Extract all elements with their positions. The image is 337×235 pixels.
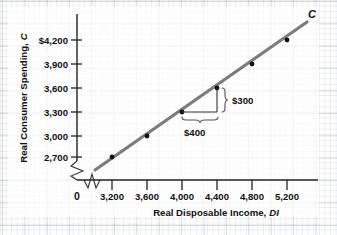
x-tick-label-3200: 3,200 bbox=[100, 191, 124, 202]
x-tick-label-3600: 3,600 bbox=[135, 191, 159, 202]
y-tick-label-4200: $4,200 bbox=[39, 35, 68, 46]
y-tick-label-3600: 3,600 bbox=[44, 83, 68, 94]
x-tick-label-4400: 4,400 bbox=[205, 191, 229, 202]
x-tick-label-4000: 4,000 bbox=[170, 191, 194, 202]
x-axis-title: Real Disposable Income,DI bbox=[153, 207, 279, 218]
graph-paper-background: $4,200 3,900 3,600 3,300 3,000 2,700 0 3… bbox=[0, 0, 337, 235]
x-axis-title-italic: DI bbox=[269, 207, 279, 218]
data-point-5200 bbox=[285, 38, 290, 43]
y-tick-label-3300: 3,300 bbox=[44, 107, 68, 118]
y-tick-label-3000: 3,000 bbox=[44, 131, 68, 142]
data-point-3600 bbox=[145, 134, 150, 139]
curve-label-c: C bbox=[308, 8, 317, 20]
origin-label: 0 bbox=[74, 190, 80, 202]
y-axis-title: Real Consumer Spending,C bbox=[18, 32, 29, 162]
y-tick-label-3900: 3,900 bbox=[44, 59, 68, 70]
y-axis-title-main: Real Consumer Spending, bbox=[18, 43, 29, 163]
y-tick-label-2700: 2,700 bbox=[44, 152, 68, 163]
run-brace bbox=[182, 117, 218, 123]
y-axis-break-icon bbox=[71, 161, 83, 180]
x-tick-label-4800: 4,800 bbox=[240, 191, 264, 202]
x-axis-break-icon bbox=[84, 174, 100, 188]
consumption-function-line bbox=[95, 22, 307, 170]
consumption-function-chart: $4,200 3,900 3,600 3,300 3,000 2,700 0 3… bbox=[0, 0, 337, 235]
x-axis-title-main: Real Disposable Income, bbox=[153, 207, 266, 218]
rise-brace bbox=[222, 88, 228, 112]
data-point-3200 bbox=[110, 155, 115, 160]
rise-label: $300 bbox=[232, 95, 253, 106]
data-point-4800 bbox=[250, 62, 255, 67]
x-tick-label-5200: 5,200 bbox=[275, 191, 299, 202]
y-axis-title-italic: C bbox=[18, 32, 29, 40]
run-label: $400 bbox=[184, 127, 205, 138]
